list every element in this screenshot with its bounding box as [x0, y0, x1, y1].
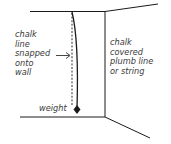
label-line: or string [110, 67, 153, 77]
chalk-line-label: chalk line snapped onto wall [15, 30, 50, 78]
adjacent-wall-top-edge [105, 4, 158, 12]
adjacent-wall-bottom-edge [105, 117, 150, 138]
weight-label: weight [39, 104, 67, 114]
label-line: wall [15, 68, 50, 78]
plumb-string [72, 12, 77, 109]
weight-icon [74, 105, 81, 114]
plumb-line-label: chalk covered plumb line or string [110, 38, 153, 76]
